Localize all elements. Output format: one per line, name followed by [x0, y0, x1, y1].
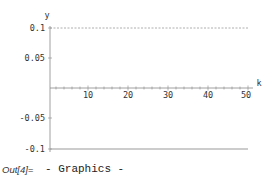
x-tick-label: 10 [83, 90, 93, 100]
output-value: - Graphics - [45, 163, 124, 175]
y-tick-label: -0.05 [19, 113, 45, 123]
x-tick-label: 50 [241, 90, 251, 100]
y-tick-label: 0.1 [30, 23, 45, 33]
x-tick-label: 20 [123, 90, 133, 100]
x-tick-label: 30 [163, 90, 173, 100]
y-axis-label: y [44, 10, 49, 20]
output-cell: Out[4]= - Graphics - [2, 162, 124, 176]
output-label: Out[4]= [2, 164, 42, 175]
y-tick-label: 0.05 [25, 53, 45, 63]
x-axis-label: k [256, 78, 261, 88]
plot: y k 0.1 0.05 -0.05 -0.1 10 20 30 40 50 [0, 0, 274, 160]
x-tick-label: 40 [203, 90, 213, 100]
y-tick-label: -0.1 [25, 144, 45, 154]
